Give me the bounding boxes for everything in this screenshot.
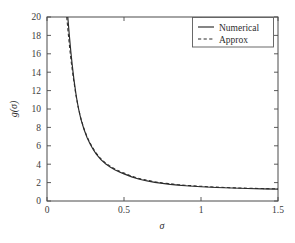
y-tick-label: 12 — [32, 86, 42, 96]
legend: Numerical Approx — [193, 18, 274, 48]
y-tick-label: 18 — [32, 31, 42, 41]
y-tick-label: 14 — [32, 68, 42, 78]
y-tick-label: 16 — [32, 49, 42, 59]
y-tick-label: 2 — [36, 178, 41, 188]
x-tick-label: 1 — [199, 205, 204, 215]
legend-label-numerical: Numerical — [219, 23, 259, 33]
line-chart: 02468101214161820 00.511.5 σ g(σ) Numeri… — [0, 0, 295, 243]
y-axis-label: g(σ) — [8, 100, 20, 117]
y-tick-label: 0 — [36, 196, 41, 206]
y-tick-label: 4 — [36, 160, 41, 170]
x-axis-label: σ — [160, 220, 166, 231]
x-tick-label: 0 — [45, 205, 50, 215]
y-tick-label: 6 — [36, 141, 41, 151]
legend-label-approx: Approx — [219, 35, 248, 45]
y-tick-label: 10 — [32, 104, 42, 114]
y-tick-label: 20 — [32, 12, 42, 22]
figure-container: 02468101214161820 00.511.5 σ g(σ) Numeri… — [0, 0, 295, 243]
y-tick-label: 8 — [36, 123, 41, 133]
x-tick-label: 0.5 — [118, 205, 130, 215]
x-tick-label: 1.5 — [272, 205, 284, 215]
